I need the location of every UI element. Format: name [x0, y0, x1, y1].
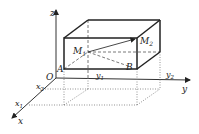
coordinate-box-diagram: z y x O M1 M2 A B y1 y2 x2 x1 [0, 0, 199, 134]
tick-x1-label: x1 [15, 99, 23, 109]
z-axis-label: z [49, 8, 55, 18]
origin-label: O [46, 72, 54, 82]
point-m1-label: M1 [72, 46, 86, 57]
y-axis-label: y [181, 84, 188, 94]
point-a-label: A [56, 64, 64, 74]
tick-x2-label: x2 [36, 82, 45, 92]
diagram-canvas: z y x O M1 M2 A B y1 y2 x2 x1 [0, 0, 199, 134]
vector-m1-m2 [88, 39, 135, 52]
x-axis [12, 78, 56, 118]
tick-y2-label: y2 [165, 70, 175, 80]
x-axis-label: x [18, 116, 23, 126]
point-m2-label: M2 [139, 36, 153, 47]
tick-y1-label: y1 [95, 71, 104, 81]
point-b-label: B [125, 62, 133, 72]
